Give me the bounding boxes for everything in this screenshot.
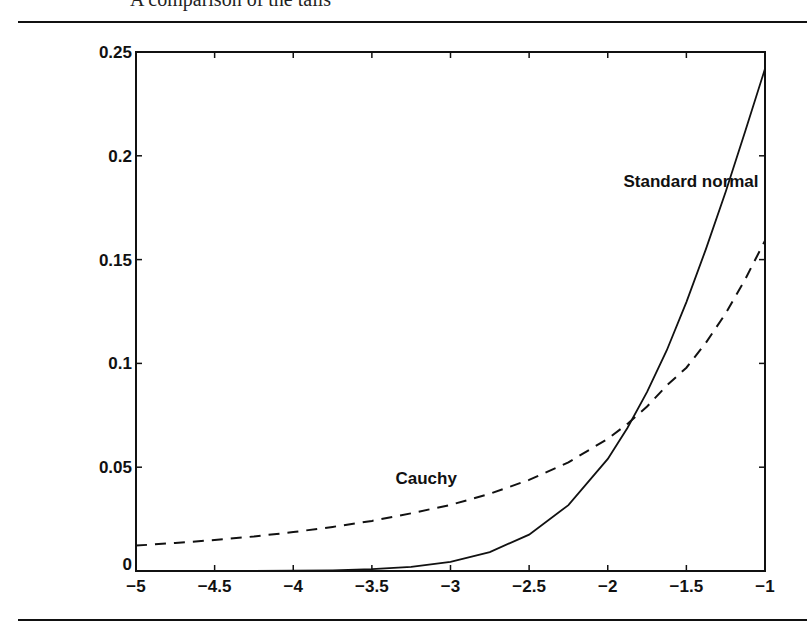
y-tick-label: 0 bbox=[123, 555, 132, 574]
x-tick-label: −4 bbox=[284, 577, 304, 596]
cauchy-label: Cauchy bbox=[395, 469, 457, 488]
axes-frame bbox=[136, 52, 765, 571]
x-tick-label: −3.5 bbox=[355, 577, 389, 596]
y-tick-label: 0.15 bbox=[99, 251, 132, 270]
tail-comparison-chart: −5−4.5−4−3.5−3−2.5−2−1.5−1 00.050.10.150… bbox=[0, 0, 807, 643]
y-tick-label: 0.1 bbox=[108, 354, 132, 373]
y-axis-ticks: 00.050.10.150.20.25 bbox=[99, 43, 765, 574]
standard-normal-label: Standard normal bbox=[623, 172, 758, 191]
plot-frame bbox=[136, 52, 765, 571]
x-tick-label: −3 bbox=[441, 577, 460, 596]
x-tick-label: −1.5 bbox=[670, 577, 704, 596]
x-tick-label: −1 bbox=[755, 577, 774, 596]
y-tick-label: 0.05 bbox=[99, 458, 132, 477]
standard-normal-curve bbox=[136, 69, 765, 571]
cauchy-curve bbox=[136, 241, 765, 546]
y-tick-label: 0.2 bbox=[108, 147, 132, 166]
y-tick-label: 0.25 bbox=[99, 43, 132, 62]
curve-labels: Standard normalCauchy bbox=[395, 172, 758, 488]
x-tick-label: −2.5 bbox=[512, 577, 546, 596]
x-tick-label: −5 bbox=[126, 577, 145, 596]
x-tick-label: −2 bbox=[598, 577, 617, 596]
curves bbox=[136, 69, 765, 571]
x-tick-label: −4.5 bbox=[198, 577, 232, 596]
